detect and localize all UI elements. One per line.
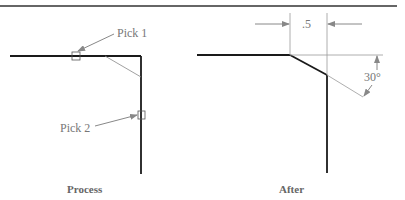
chamfer-diagram: Pick 1 Pick 2 Process .5 30° After	[0, 0, 405, 200]
angle-arrow-down	[364, 85, 372, 96]
process-panel: Pick 1 Pick 2 Process	[10, 26, 147, 195]
chamfer-edge	[290, 55, 327, 75]
after-caption: After	[279, 183, 304, 195]
pick2-leader-arrow	[95, 115, 137, 126]
pick2-label: Pick 2	[60, 121, 90, 135]
after-panel: .5 30° After	[197, 13, 383, 195]
chamfer-preview-line	[105, 56, 141, 77]
pick1-leader-arrow	[78, 34, 114, 51]
angle-extension-line	[327, 75, 363, 97]
pick1-label: Pick 1	[117, 26, 147, 40]
process-caption: Process	[67, 183, 103, 195]
angle-label: 30°	[364, 70, 381, 84]
dimension-label: .5	[302, 17, 311, 31]
